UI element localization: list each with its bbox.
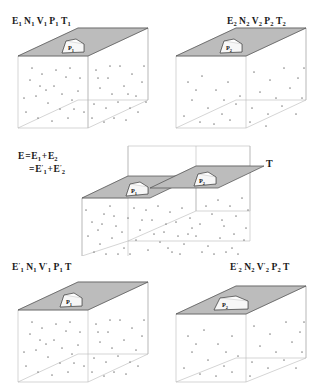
panel-top-left: E1 N1 V1 P1 T1: [0, 8, 158, 130]
box-diagram-top-left: P1: [0, 8, 158, 130]
box-diagram-bottom-right: P2: [158, 256, 316, 384]
gas-particles-bottom-left: [23, 319, 145, 377]
panel-top-right-label: E2 N2 V2 P2 T2: [227, 16, 286, 26]
panel-bottom-right: E′2 N2 V′2 P2 T: [158, 256, 316, 384]
box-diagram-top-right: P2: [158, 8, 316, 130]
box-wireframe-middle: [82, 146, 250, 256]
container-lid-bottom-left: [18, 282, 148, 310]
box-diagram-bottom-left: P1: [0, 256, 158, 384]
panel-bottom-right-label: E′2 N2 V′2 P2 T: [230, 262, 290, 272]
panel-bottom-left-label: E′1 N1 V′1 P1 T: [12, 262, 72, 272]
panel-top-right: E2 N2 V2 P2 T2: [158, 8, 316, 130]
panel-top-left-label: E1 N1 V1 P1 T1: [12, 16, 71, 26]
gas-particles-top-right: [183, 67, 305, 127]
gas-particles-top-left: [23, 65, 147, 123]
gas-particles-bottom-right: [183, 321, 305, 377]
panel-bottom-left: E′1 N1 V′1 P1 T: [0, 256, 158, 384]
box-diagram-middle: P1 P2: [0, 136, 316, 256]
figure-canvas: E1 N1 V1 P1 T1: [0, 0, 316, 386]
gas-particles-middle: [85, 197, 249, 255]
panel-middle: E = E1 + E2 = E′1 + E′2 T: [0, 136, 316, 256]
